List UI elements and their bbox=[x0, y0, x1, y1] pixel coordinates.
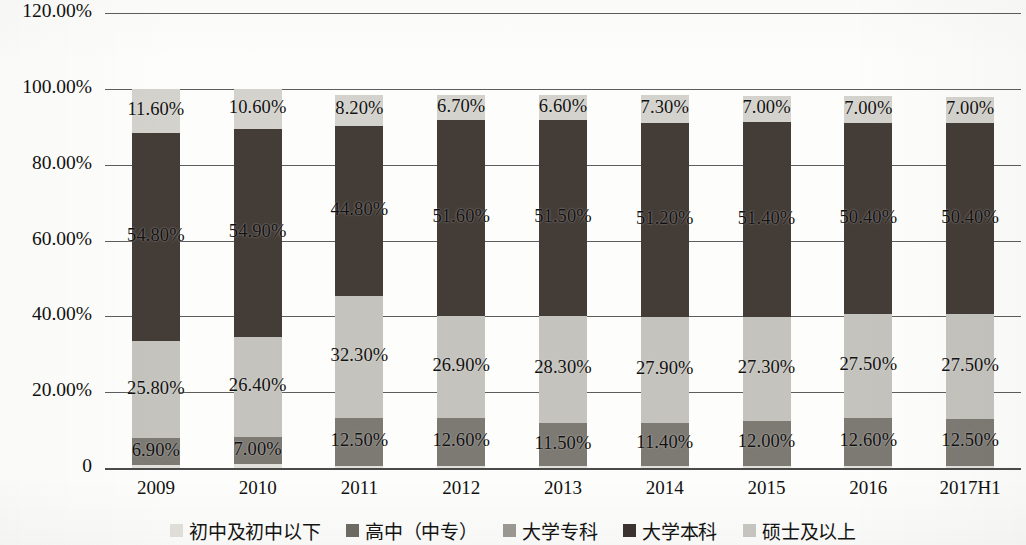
bar-segment[interactable] bbox=[539, 466, 587, 468]
data-label: 7.00% bbox=[844, 98, 892, 119]
data-label: 28.30% bbox=[534, 357, 592, 378]
bar-segment[interactable] bbox=[335, 466, 383, 468]
plot-area: 6.90%25.80%54.80%11.60%7.00%26.40%54.90%… bbox=[105, 13, 1021, 468]
y-axis-tick-label: 40.00% bbox=[0, 303, 92, 325]
legend-swatch-icon bbox=[623, 524, 636, 537]
x-axis-tick-label: 2009 bbox=[137, 477, 175, 499]
y-axis-tick-label: 120.00% bbox=[0, 0, 92, 22]
data-label: 26.40% bbox=[229, 375, 287, 396]
data-label: 12.00% bbox=[738, 431, 796, 452]
data-label: 6.70% bbox=[437, 96, 485, 117]
legend-item[interactable]: 大学专科 bbox=[503, 517, 597, 544]
y-axis-tick-label: 20.00% bbox=[0, 379, 92, 401]
bar-segment[interactable] bbox=[743, 466, 791, 468]
data-label: 51.40% bbox=[738, 208, 796, 229]
bar-group[interactable]: 12.00%27.30%51.40%7.00% bbox=[743, 13, 791, 468]
data-label: 7.30% bbox=[641, 97, 689, 118]
data-label: 50.40% bbox=[941, 207, 999, 228]
y-axis-tick-label: 100.00% bbox=[0, 76, 92, 98]
data-label: 54.90% bbox=[229, 221, 287, 242]
x-axis-tick-label: 2017H1 bbox=[939, 477, 1000, 499]
x-axis-tick-label: 2012 bbox=[442, 477, 480, 499]
data-label: 51.20% bbox=[636, 208, 694, 229]
data-label: 51.50% bbox=[534, 206, 592, 227]
data-label: 12.60% bbox=[432, 430, 490, 451]
x-axis: 200920102011201220132014201520162017H1 bbox=[105, 477, 1021, 503]
legend-swatch-icon bbox=[170, 524, 183, 537]
chart-legend: 初中及初中以下高中（中专）大学专科大学本科硕士及以上 bbox=[0, 515, 1026, 545]
x-axis-tick-label: 2016 bbox=[849, 477, 887, 499]
data-label: 27.50% bbox=[840, 354, 898, 375]
data-label: 51.60% bbox=[432, 206, 490, 227]
data-label: 12.50% bbox=[941, 430, 999, 451]
x-axis-tick-label: 2014 bbox=[646, 477, 684, 499]
data-label: 6.60% bbox=[539, 96, 587, 117]
data-label: 10.60% bbox=[229, 97, 287, 118]
bar-segment[interactable] bbox=[641, 466, 689, 468]
data-label: 44.80% bbox=[331, 199, 389, 220]
y-axis-tick-label: 60.00% bbox=[0, 228, 92, 250]
legend-swatch-icon bbox=[743, 524, 756, 537]
bar-group[interactable]: 12.60%27.50%50.40%7.00% bbox=[844, 13, 892, 468]
bar-segment[interactable] bbox=[437, 466, 485, 468]
x-axis-line bbox=[105, 468, 1021, 470]
bar-group[interactable]: 12.50%27.50%50.40%7.00% bbox=[946, 13, 994, 468]
data-label: 32.30% bbox=[331, 345, 389, 366]
data-label: 27.90% bbox=[636, 358, 694, 379]
bars-layer: 6.90%25.80%54.80%11.60%7.00%26.40%54.90%… bbox=[105, 13, 1021, 468]
data-label: 7.00% bbox=[946, 98, 994, 119]
y-axis-tick-label: 80.00% bbox=[0, 152, 92, 174]
legend-item[interactable]: 硕士及以上 bbox=[743, 517, 856, 544]
data-label: 6.90% bbox=[132, 440, 180, 461]
data-label: 26.90% bbox=[432, 355, 490, 376]
bar-group[interactable]: 12.60%26.90%51.60%6.70% bbox=[437, 13, 485, 468]
legend-label: 硕士及以上 bbox=[762, 517, 856, 544]
x-axis-tick-label: 2011 bbox=[341, 477, 378, 499]
legend-label: 高中（中专） bbox=[365, 517, 477, 544]
bar-group[interactable]: 6.90%25.80%54.80%11.60% bbox=[132, 13, 180, 468]
data-label: 50.40% bbox=[840, 207, 898, 228]
bar-segment[interactable] bbox=[234, 464, 282, 468]
legend-label: 初中及初中以下 bbox=[189, 517, 320, 544]
data-label: 27.50% bbox=[941, 355, 999, 376]
x-axis-tick-label: 2015 bbox=[748, 477, 786, 499]
bar-segment[interactable] bbox=[946, 466, 994, 468]
y-axis-tick-label: 0 bbox=[0, 455, 92, 477]
bar-group[interactable]: 11.40%27.90%51.20%7.30% bbox=[641, 13, 689, 468]
data-label: 11.50% bbox=[535, 433, 592, 454]
bar-segment[interactable] bbox=[132, 465, 180, 468]
data-label: 54.80% bbox=[127, 225, 185, 246]
data-label: 27.30% bbox=[738, 357, 796, 378]
bar-group[interactable]: 11.50%28.30%51.50%6.60% bbox=[539, 13, 587, 468]
stacked-bar-chart: 020.00%40.00%60.00%80.00%100.00%120.00% … bbox=[0, 0, 1026, 545]
legend-swatch-icon bbox=[503, 524, 516, 537]
data-label: 11.60% bbox=[127, 99, 184, 120]
legend-item[interactable]: 初中及初中以下 bbox=[170, 517, 320, 544]
legend-label: 大学本科 bbox=[642, 517, 717, 544]
data-label: 11.40% bbox=[636, 432, 693, 453]
bar-group[interactable]: 7.00%26.40%54.90%10.60% bbox=[234, 13, 282, 468]
legend-item[interactable]: 高中（中专） bbox=[346, 517, 477, 544]
data-label: 25.80% bbox=[127, 378, 185, 399]
data-label: 7.00% bbox=[742, 97, 790, 118]
data-label: 12.60% bbox=[840, 430, 898, 451]
data-label: 12.50% bbox=[331, 430, 389, 451]
x-axis-tick-label: 2010 bbox=[239, 477, 277, 499]
bar-segment[interactable] bbox=[844, 466, 892, 468]
data-label: 7.00% bbox=[234, 439, 282, 460]
legend-swatch-icon bbox=[346, 524, 359, 537]
data-label: 8.20% bbox=[335, 98, 383, 119]
x-axis-tick-label: 2013 bbox=[544, 477, 582, 499]
legend-label: 大学专科 bbox=[522, 517, 597, 544]
legend-item[interactable]: 大学本科 bbox=[623, 517, 717, 544]
bar-group[interactable]: 12.50%32.30%44.80%8.20% bbox=[335, 13, 383, 468]
